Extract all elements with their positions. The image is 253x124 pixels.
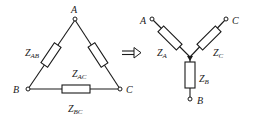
transform-arrow-icon: [122, 48, 141, 59]
resistor-zab: [41, 43, 61, 67]
impedance-label-zb: ZB: [199, 73, 210, 86]
terminal-b: [188, 97, 192, 101]
impedance-label-zac: ZAC: [72, 68, 87, 81]
delta-network: A B C ZAB ZAC ZBC: [13, 4, 133, 116]
terminal-c: [224, 17, 228, 21]
resistor-zac: [88, 43, 108, 67]
wye-network: A C B ZA ZC ZB: [139, 15, 239, 106]
impedance-label-za: ZA: [157, 47, 168, 60]
terminal-b: [26, 87, 30, 91]
node-label-c: C: [232, 15, 239, 26]
terminal-a: [150, 17, 154, 21]
resistor-zb: [185, 62, 195, 88]
delta-wye-diagram: A B C ZAB ZAC ZBC A C B ZA ZC: [0, 0, 253, 124]
impedance-label-zc: ZC: [213, 47, 224, 60]
terminal-c: [118, 87, 122, 91]
impedance-label-zab: ZAB: [25, 47, 40, 60]
impedance-label-zbc: ZBC: [68, 103, 83, 116]
resistor-zbc: [62, 85, 90, 93]
junction-node: [187, 56, 193, 61]
node-label-a: A: [139, 15, 147, 26]
terminal-a: [73, 17, 77, 21]
node-label-a: A: [70, 4, 78, 15]
node-label-c: C: [126, 84, 133, 95]
node-label-b: B: [197, 95, 203, 106]
node-label-b: B: [13, 84, 19, 95]
